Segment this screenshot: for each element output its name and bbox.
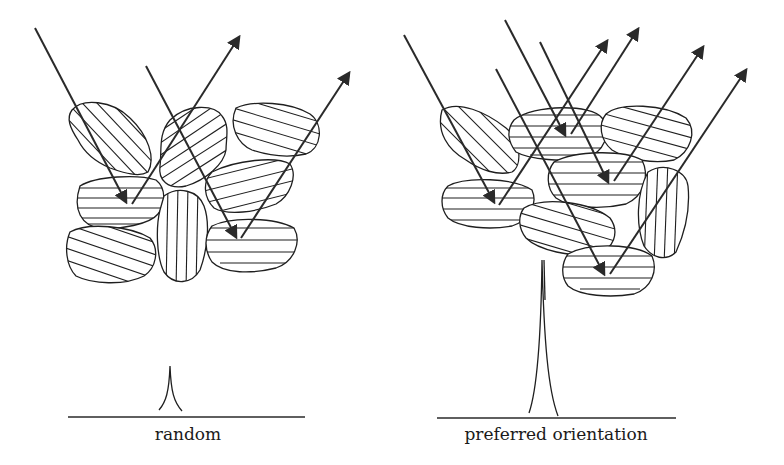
diffraction-peak	[159, 366, 182, 411]
grain-icon	[555, 246, 665, 296]
grain-icon	[220, 80, 330, 161]
panel-preferred	[404, 20, 746, 418]
grain-icon	[200, 219, 305, 272]
diffraction-orientation-diagram	[0, 0, 784, 465]
caption-preferred-orientation: preferred orientation	[464, 424, 647, 444]
caption-random: random	[155, 424, 221, 444]
grain-icon	[70, 177, 170, 229]
grain-icon	[157, 185, 207, 290]
panel-random	[35, 28, 349, 417]
grain-icon	[638, 160, 688, 265]
diffraction-peak-inner	[544, 260, 545, 300]
diffraction-peak	[529, 260, 558, 416]
diffracted-ray-arrow	[241, 73, 349, 238]
